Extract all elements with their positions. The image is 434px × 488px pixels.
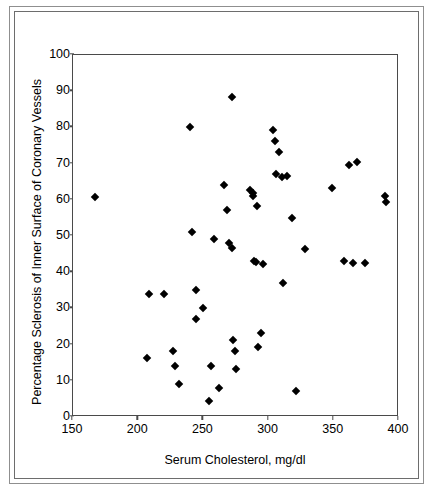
x-tick-mark <box>267 416 268 420</box>
data-point <box>191 286 199 294</box>
data-points-layer <box>73 55 397 415</box>
data-point <box>254 343 262 351</box>
x-tick-label: 150 <box>50 423 94 436</box>
data-point <box>220 181 228 189</box>
data-point <box>230 347 238 355</box>
data-point <box>91 193 99 201</box>
data-point <box>170 362 178 370</box>
x-tick-mark <box>71 416 72 420</box>
data-point <box>160 289 168 297</box>
x-tick-label: 200 <box>115 423 159 436</box>
data-point <box>275 148 283 156</box>
data-point <box>144 290 152 298</box>
x-tick-label: 400 <box>376 423 420 436</box>
scatter-chart-figure: Percentage Sclerosis of Inner Surface of… <box>14 11 419 479</box>
data-point <box>268 126 276 134</box>
data-point <box>279 278 287 286</box>
y-tick-label: 50 <box>44 229 70 242</box>
x-tick-mark <box>332 416 333 420</box>
x-axis-title: Serum Cholesterol, mg/dl <box>72 453 398 467</box>
data-point <box>169 347 177 355</box>
y-tick-label: 70 <box>44 156 70 169</box>
data-point <box>199 303 207 311</box>
figure-page: Percentage Sclerosis of Inner Surface of… <box>0 0 434 488</box>
data-point <box>259 260 267 268</box>
data-point <box>187 227 195 235</box>
y-tick-label: 80 <box>44 120 70 133</box>
x-tick-label: 350 <box>311 423 355 436</box>
data-point <box>204 397 212 405</box>
data-point <box>207 362 215 370</box>
data-point <box>228 93 236 101</box>
data-point <box>349 259 357 267</box>
y-tick-label: 30 <box>44 301 70 314</box>
data-point <box>229 336 237 344</box>
y-tick-label: 100 <box>44 48 70 61</box>
data-point <box>257 329 265 337</box>
data-point <box>191 314 199 322</box>
data-point <box>174 380 182 388</box>
data-point <box>288 213 296 221</box>
x-tick-mark <box>202 416 203 420</box>
data-point <box>328 184 336 192</box>
x-tick-mark <box>397 416 398 420</box>
data-point <box>186 122 194 130</box>
data-point <box>353 158 361 166</box>
data-point <box>271 137 279 145</box>
y-tick-label: 40 <box>44 265 70 278</box>
y-tick-label: 60 <box>44 193 70 206</box>
data-point <box>143 354 151 362</box>
plot-area <box>72 54 398 416</box>
data-point <box>223 205 231 213</box>
data-point <box>340 256 348 264</box>
y-tick-label: 10 <box>44 374 70 387</box>
y-tick-label: 20 <box>44 337 70 350</box>
x-tick-label: 250 <box>180 423 224 436</box>
x-tick-mark <box>136 416 137 420</box>
data-point <box>292 387 300 395</box>
y-tick-label: 0 <box>44 410 70 423</box>
data-point <box>382 198 390 206</box>
data-point <box>210 235 218 243</box>
data-point <box>253 202 261 210</box>
y-axis-ticks: 0102030405060708090100 <box>40 54 70 416</box>
x-tick-label: 300 <box>246 423 290 436</box>
data-point <box>215 384 223 392</box>
data-point <box>361 259 369 267</box>
data-point <box>232 365 240 373</box>
x-axis-ticks: 150200250300350400 <box>72 416 398 442</box>
y-tick-label: 90 <box>44 84 70 97</box>
data-point <box>301 245 309 253</box>
